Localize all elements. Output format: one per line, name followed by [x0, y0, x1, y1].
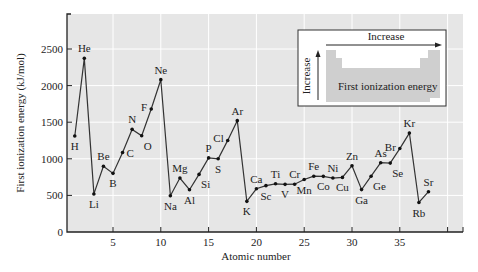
data-point	[398, 147, 402, 151]
y-tick-label: 1500	[41, 116, 64, 128]
data-point	[111, 172, 115, 176]
element-label-c: C	[127, 147, 134, 159]
element-label-s: S	[215, 163, 221, 175]
element-label-k: K	[243, 205, 251, 217]
element-label-ar: Ar	[231, 105, 243, 117]
element-label-ge: Ge	[373, 180, 386, 192]
data-point	[264, 184, 268, 188]
element-label-ne: Ne	[154, 64, 167, 76]
data-point	[417, 201, 421, 205]
ionization-energy-chart: 5101520253035 05001000150020002500 Atomi…	[0, 0, 478, 272]
element-label-ni: Ni	[327, 162, 338, 174]
data-point	[159, 78, 163, 82]
data-point	[408, 131, 412, 135]
element-label-sr: Sr	[424, 176, 434, 188]
y-tick-label: 1000	[41, 153, 64, 165]
element-label-ca: Ca	[250, 173, 262, 185]
data-point	[226, 139, 230, 143]
element-label-al: Al	[184, 194, 195, 206]
inset-vertical-label: Increase	[300, 58, 312, 95]
element-label-mn: Mn	[297, 184, 313, 196]
element-label-v: V	[281, 188, 289, 200]
data-point	[102, 164, 106, 168]
element-label-f: F	[141, 101, 147, 113]
trend-inset: Increase Increase First ionization energ…	[298, 30, 446, 106]
element-label-h: H	[71, 140, 79, 152]
data-point	[130, 128, 134, 132]
x-tick-label: 10	[155, 236, 167, 248]
element-label-n: N	[128, 113, 136, 125]
inset-caption: First ionization energy	[338, 80, 438, 92]
element-label-br: Br	[385, 141, 396, 153]
data-point	[379, 161, 383, 165]
element-label-kr: Kr	[404, 117, 416, 129]
element-label-be: Be	[97, 150, 109, 162]
data-point	[188, 188, 192, 192]
element-label-si: Si	[201, 178, 210, 190]
element-label-cl: Cl	[213, 132, 223, 144]
data-point	[73, 134, 77, 138]
y-tick-label: 2500	[41, 43, 64, 55]
element-label-mg: Mg	[172, 162, 188, 174]
x-tick-label: 20	[251, 236, 263, 248]
data-point	[360, 188, 364, 192]
element-label-ga: Ga	[355, 194, 368, 206]
inset-horizontal-label: Increase	[368, 30, 405, 42]
data-point	[302, 178, 306, 182]
y-tick-label: 500	[47, 189, 64, 201]
data-point	[121, 151, 125, 155]
data-point	[149, 107, 153, 111]
y-tick-label: 2000	[41, 80, 64, 92]
data-point	[140, 134, 144, 138]
element-label-cr: Cr	[289, 168, 300, 180]
data-point	[216, 157, 220, 161]
data-point	[274, 182, 278, 186]
x-tick-label: 30	[347, 236, 359, 248]
data-point	[178, 176, 182, 180]
data-point	[245, 200, 249, 204]
element-label-ti: Ti	[271, 168, 280, 180]
element-label-zn: Zn	[346, 150, 359, 162]
data-point	[283, 183, 287, 187]
y-tick-label: 0	[58, 226, 64, 238]
data-point	[350, 164, 354, 168]
x-tick-label: 25	[299, 236, 311, 248]
data-point	[369, 174, 373, 178]
element-label-na: Na	[164, 200, 177, 212]
x-tick-label: 15	[203, 236, 215, 248]
element-label-cu: Cu	[336, 181, 349, 193]
data-point	[169, 194, 173, 198]
element-label-co: Co	[317, 180, 330, 192]
data-point	[312, 174, 316, 178]
data-point	[235, 119, 239, 123]
data-point	[331, 176, 335, 180]
element-label-o: O	[144, 140, 152, 152]
data-point	[427, 190, 431, 194]
data-point	[255, 187, 259, 191]
data-point	[341, 176, 345, 180]
element-label-fe: Fe	[308, 160, 319, 172]
element-label-b: B	[109, 177, 116, 189]
data-point	[83, 57, 87, 61]
data-point	[197, 173, 201, 177]
x-tick-label: 35	[394, 236, 406, 248]
x-tick-label: 5	[110, 236, 116, 248]
element-label-li: Li	[89, 198, 99, 210]
data-point	[92, 192, 96, 196]
element-label-p: P	[206, 142, 212, 154]
x-axis-title: Atomic number	[221, 250, 291, 262]
data-point	[207, 156, 211, 160]
y-axis-title: First ionization energy (kJ/mol)	[14, 53, 27, 193]
element-label-sc: Sc	[260, 190, 271, 202]
element-label-rb: Rb	[412, 207, 425, 219]
element-label-he: He	[78, 42, 91, 54]
data-point	[322, 175, 326, 179]
element-label-se: Se	[392, 167, 403, 179]
data-point	[388, 161, 392, 165]
